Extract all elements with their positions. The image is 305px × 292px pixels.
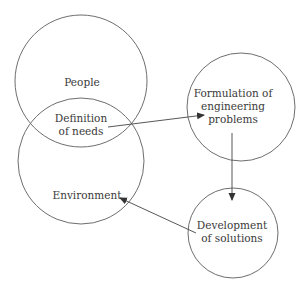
definition-label: Definition of needs [55, 112, 107, 138]
development-label: Development of solutions [197, 219, 267, 245]
diagram-canvas [0, 0, 305, 292]
environment-label: Environment [53, 189, 122, 202]
definition-label-line-2: of needs [55, 125, 107, 138]
people-label-line: People [64, 76, 99, 88]
environment-label-line: Environment [53, 189, 122, 201]
definition-label-line-1: Definition [55, 112, 107, 125]
arrow-development-to-environment [120, 198, 196, 233]
formulation-label-line-3: problems [194, 113, 273, 126]
formulation-label-line-2: engineering [194, 100, 273, 113]
people-label: People [64, 76, 99, 89]
arrow-definition-to-formulation [108, 115, 204, 127]
development-label-line-2: of solutions [197, 232, 267, 245]
development-label-line-1: Development [197, 219, 267, 232]
formulation-label: Formulation of engineering problems [194, 87, 273, 126]
formulation-label-line-1: Formulation of [194, 87, 273, 100]
